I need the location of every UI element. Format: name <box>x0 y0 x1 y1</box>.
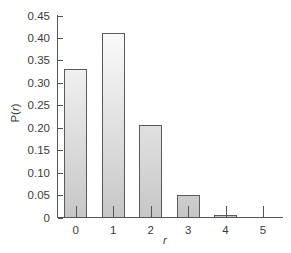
y-title-suffix: ) <box>9 103 21 107</box>
x-axis-title: r <box>163 234 167 246</box>
x-tick <box>188 206 189 217</box>
x-tick-label: 4 <box>216 224 236 236</box>
x-tick-label: 5 <box>253 224 273 236</box>
y-tick-label: 0.05 <box>0 189 50 201</box>
y-tick <box>58 218 63 219</box>
bar-0 <box>64 69 87 217</box>
x-axis <box>57 217 283 218</box>
y-tick-label: 0.25 <box>0 99 50 111</box>
x-tick-label: 2 <box>141 224 161 236</box>
y-tick <box>58 38 63 39</box>
y-tick <box>58 195 63 196</box>
y-axis <box>57 15 58 218</box>
y-tick <box>58 16 63 17</box>
y-tick <box>58 83 63 84</box>
y-tick <box>58 150 63 151</box>
y-tick <box>58 173 63 174</box>
y-tick-label: 0.30 <box>0 77 50 89</box>
y-title-prefix: P( <box>9 111 21 123</box>
y-tick-label: 0 <box>0 212 50 224</box>
y-tick-label: 0.35 <box>0 54 50 66</box>
x-tick <box>76 206 77 217</box>
bar-chart: 00.050.100.150.200.250.300.350.400.45 P(… <box>0 0 291 253</box>
y-tick <box>58 60 63 61</box>
y-tick-label: 0.20 <box>0 122 50 134</box>
y-axis-title: P(r) <box>9 101 21 125</box>
y-tick-label: 0.45 <box>0 10 50 22</box>
x-tick <box>151 206 152 217</box>
x-tick-label: 3 <box>178 224 198 236</box>
x-tick <box>263 206 264 217</box>
y-tick-label: 0.40 <box>0 32 50 44</box>
bar-1 <box>102 33 125 217</box>
y-tick-label: 0.15 <box>0 144 50 156</box>
x-tick-label: 0 <box>66 224 86 236</box>
bar-2 <box>139 125 162 217</box>
x-tick <box>113 206 114 217</box>
y-tick-label: 0.10 <box>0 167 50 179</box>
x-tick-label: 1 <box>103 224 123 236</box>
y-tick <box>58 128 63 129</box>
y-tick <box>58 105 63 106</box>
x-tick <box>226 206 227 217</box>
y-title-var: r <box>9 107 21 111</box>
